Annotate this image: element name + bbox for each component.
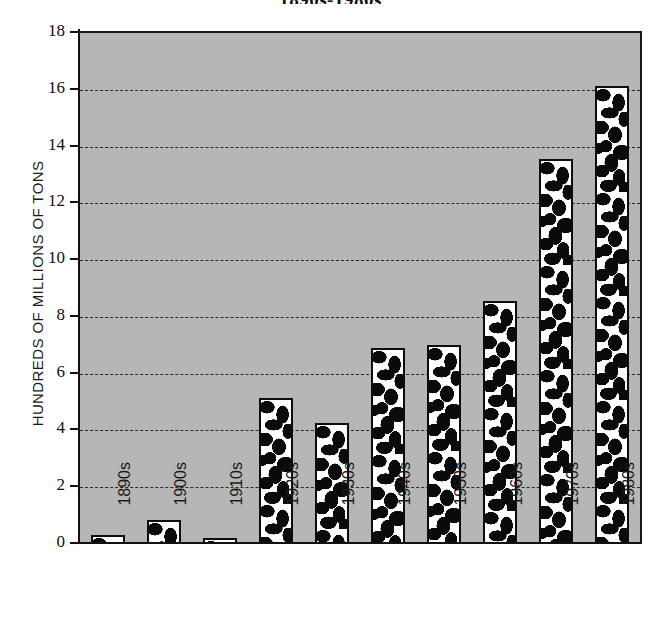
x-axis-tick-label: 1980s [620, 462, 638, 552]
y-axis-tick-label: 6 [5, 363, 65, 380]
y-axis-tick-label: 10 [5, 249, 65, 266]
y-axis-tick-label: 14 [5, 136, 65, 153]
y-axis-tick [70, 201, 78, 203]
y-axis-tick [70, 315, 78, 317]
y-axis-tick [70, 485, 78, 487]
y-axis-tick [70, 258, 78, 260]
y-axis-tick-label: 18 [5, 22, 65, 39]
y-axis-tick [70, 145, 78, 147]
y-axis-tick-label: 12 [5, 192, 65, 209]
y-axis-tick [70, 542, 78, 544]
gridline [80, 147, 640, 148]
x-axis-tick-label: 1910s [228, 462, 246, 552]
x-axis-tick-label: 1960s [508, 462, 526, 552]
chart-figure: 1890s-1980s HUNDREDS OF MILLIONS OF TONS… [0, 0, 661, 619]
y-axis-tick [70, 428, 78, 430]
y-axis-tick [70, 31, 78, 33]
chart-title: 1890s-1980s [0, 0, 661, 4]
y-axis-tick-label: 4 [5, 419, 65, 436]
y-axis-tick-label: 0 [5, 533, 65, 550]
x-axis-tick-label: 1920s [284, 462, 302, 552]
y-axis-tick-label: 8 [5, 306, 65, 323]
y-axis-tick [70, 88, 78, 90]
x-axis-tick-label: 1890s [116, 462, 134, 552]
y-axis-tick [70, 372, 78, 374]
gridline [80, 90, 640, 91]
x-axis-tick-label: 1970s [564, 462, 582, 552]
x-axis-line [78, 542, 642, 544]
plot-area [80, 31, 642, 544]
x-axis-tick-label: 1950s [452, 462, 470, 552]
y-axis-tick-label: 16 [5, 79, 65, 96]
y-axis-tick-label: 2 [5, 476, 65, 493]
x-axis-tick-label: 1930s [340, 462, 358, 552]
x-axis-tick-label: 1900s [172, 462, 190, 552]
x-axis-tick-label: 1940s [396, 462, 414, 552]
y-axis-line [78, 29, 80, 544]
